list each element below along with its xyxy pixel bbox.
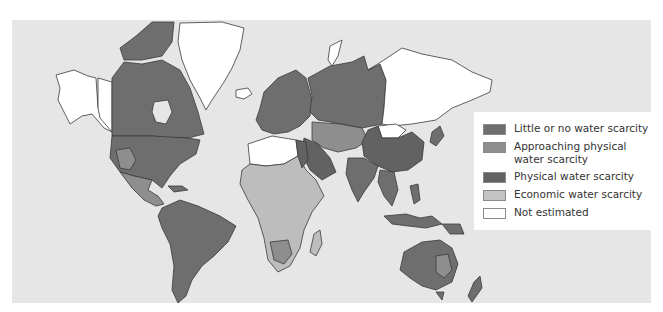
legend-label-line2: water scarcity <box>514 153 588 165</box>
legend-swatch <box>483 172 506 183</box>
legend-swatch <box>483 208 506 219</box>
region-philippines <box>410 184 420 204</box>
legend-item-not-estimated: Not estimated <box>483 206 589 219</box>
region-southeast-asia <box>378 170 398 206</box>
region-japan <box>430 126 444 146</box>
region-caribbean <box>168 186 188 192</box>
legend-item-economic: Economic water scarcity <box>483 188 642 201</box>
legend-item-approaching-physical: Approaching physical water scarcity <box>483 140 627 165</box>
legend-label: Approaching physical water scarcity <box>514 140 627 165</box>
region-new-zealand <box>468 276 482 302</box>
region-canada-arctic <box>120 22 174 60</box>
legend-swatch <box>483 142 506 153</box>
region-iceland <box>236 88 252 99</box>
region-south-america <box>158 200 236 303</box>
legend: Little or no water scarcity Approaching … <box>474 112 651 230</box>
legend-label-line1: Approaching physical <box>514 140 627 152</box>
region-tasmania <box>436 292 444 300</box>
legend-label: Little or no water scarcity <box>514 122 648 135</box>
region-mongolia <box>378 124 406 138</box>
legend-label: Not estimated <box>514 206 589 219</box>
region-novaya-zemlya <box>328 40 342 66</box>
region-europe <box>256 70 312 134</box>
legend-item-little-or-no: Little or no water scarcity <box>483 122 648 135</box>
region-madagascar <box>310 230 322 256</box>
legend-swatch <box>483 124 506 135</box>
region-papua-new-guinea <box>442 224 464 234</box>
legend-item-physical: Physical water scarcity <box>483 170 634 183</box>
region-indonesia <box>384 214 442 228</box>
legend-label: Economic water scarcity <box>514 188 642 201</box>
legend-label: Physical water scarcity <box>514 170 634 183</box>
legend-swatch <box>483 190 506 201</box>
region-india <box>346 158 378 202</box>
